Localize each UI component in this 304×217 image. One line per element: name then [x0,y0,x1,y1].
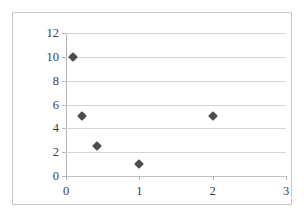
gridline-y-2 [66,152,286,153]
y-axis-label-4: 4 [53,122,59,135]
gridline-y-10 [66,57,286,58]
gridline-y-12 [66,33,286,34]
x-axis-label-3: 3 [283,185,289,198]
y-axis-label-10: 10 [47,51,60,64]
y-tick-mark-10 [62,57,66,58]
data-point [77,111,87,121]
gridline-y-0 [66,176,286,177]
data-point [134,159,144,169]
data-point [68,52,78,62]
data-point [208,111,218,121]
y-axis-label-6: 6 [53,98,59,111]
gridline-y-4 [66,128,286,129]
x-tick-mark-1 [139,176,140,180]
y-axis-label-0: 0 [53,170,59,183]
y-axis-label-12: 12 [47,27,60,40]
x-axis-label-2: 2 [210,185,216,198]
y-axis-label-8: 8 [53,74,59,87]
gridline-y-8 [66,81,286,82]
y-tick-mark-12 [62,33,66,34]
y-tick-mark-6 [62,105,66,106]
chart-frame: 0246810120123 [12,12,292,205]
y-axis-label-2: 2 [53,146,59,159]
data-point [92,141,102,151]
y-tick-mark-2 [62,152,66,153]
y-tick-mark-4 [62,128,66,129]
x-tick-mark-2 [213,176,214,180]
x-axis-label-0: 0 [63,185,69,198]
x-tick-mark-0 [66,176,67,180]
plot-area: 0246810120123 [66,33,286,176]
x-axis-label-1: 1 [136,185,142,198]
y-tick-mark-8 [62,81,66,82]
x-tick-mark-3 [286,176,287,180]
gridline-y-6 [66,105,286,106]
